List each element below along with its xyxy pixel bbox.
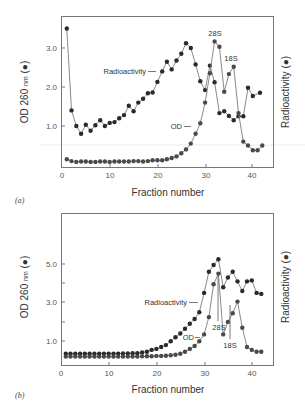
radioactivity-data-point — [179, 52, 183, 56]
od-data-point — [179, 151, 183, 155]
od-data-point — [88, 160, 92, 164]
radioactivity-data-point — [174, 58, 178, 62]
radioactivity-data-point — [136, 100, 140, 104]
od-data-point — [259, 350, 263, 354]
panel-a-xtick-0: 0 — [60, 171, 65, 180]
od-data-point — [236, 111, 240, 115]
od-data-point — [122, 159, 126, 163]
radioactivity-data-point — [188, 322, 192, 326]
svg-text:Radioactivity (●): Radioactivity (●) — [280, 251, 291, 323]
od-data-point — [117, 159, 121, 163]
panel-b-right-axis-label: Radioactivity (●) — [280, 251, 291, 323]
od-data-point — [207, 315, 211, 319]
od-data-point — [221, 332, 225, 336]
od-data-point — [93, 160, 97, 164]
od-data-point — [146, 159, 150, 163]
od-data-point — [165, 157, 169, 161]
panel-a-annotation-28s: 28S — [208, 29, 221, 38]
od-data-point — [226, 320, 230, 324]
radioactivity-data-point — [159, 345, 163, 349]
od-data-point — [232, 65, 236, 69]
radioactivity-data-point — [122, 113, 126, 117]
od-data-point — [92, 354, 96, 358]
radioactivity-data-point — [184, 41, 188, 45]
od-data-point — [136, 159, 140, 163]
radioactivity-data-point — [140, 350, 144, 354]
od-data-point — [116, 354, 120, 358]
radioactivity-data-point — [170, 67, 174, 71]
radioactivity-data-point — [103, 124, 107, 128]
radioactivity-data-point — [155, 80, 159, 84]
sedimentation-profile-figure: 3.0 2.0 1.0 0 10 20 30 40 Fraction numbe… — [0, 0, 305, 406]
radioactivity-data-point — [65, 26, 69, 30]
panel-a-xtick-40: 40 — [248, 171, 257, 180]
panel-a-y-ticks — [62, 48, 66, 126]
od-data-point — [102, 354, 106, 358]
od-data-point — [159, 354, 163, 358]
od-data-point — [197, 339, 201, 343]
radioactivity-data-point — [254, 291, 258, 295]
panel-b-annotation-radioactivity: Radioactivity — [144, 298, 187, 307]
radioactivity-data-point — [164, 343, 168, 347]
radioactivity-data-point — [149, 348, 153, 352]
radioactivity-data-point — [189, 46, 193, 50]
od-data-point — [111, 354, 115, 358]
panel-a-ytick-3: 3.0 — [46, 44, 58, 53]
radioactivity-data-point — [165, 60, 169, 64]
od-data-point — [150, 158, 154, 162]
panel-b-xtick-30: 30 — [201, 369, 210, 378]
radioactivity-data-point — [160, 69, 164, 73]
od-data-point — [98, 159, 102, 163]
radioactivity-data-point — [193, 62, 197, 66]
panel-b-xtick-40: 40 — [248, 369, 257, 378]
panel-a-y-axis-label: OD 260 nm (●) — [19, 61, 30, 123]
od-data-point — [170, 156, 174, 160]
od-data-point — [131, 159, 135, 163]
od-data-point — [231, 311, 235, 315]
radioactivity-data-point — [250, 278, 254, 282]
radioactivity-data-point — [192, 317, 196, 321]
panel-b-xtick-0: 0 — [59, 369, 64, 378]
od-data-point — [240, 326, 244, 330]
od-data-point — [73, 354, 77, 358]
radioactivity-data-point — [131, 109, 135, 113]
radioactivity-data-point — [226, 275, 230, 279]
radioactivity-data-point — [141, 97, 145, 101]
panel-a-xtick-10: 10 — [106, 171, 115, 180]
od-data-point — [222, 90, 226, 94]
od-data-point — [145, 354, 149, 358]
radioactivity-data-point — [212, 80, 216, 84]
radioactivity-data-point — [241, 114, 245, 118]
panel-b-annotation-od: OD — [183, 333, 195, 342]
od-data-point — [126, 354, 130, 358]
od-data-point — [217, 45, 221, 49]
od-data-point — [69, 159, 73, 163]
od-data-point — [208, 71, 212, 75]
radioactivity-data-point — [245, 279, 249, 283]
od-data-point — [65, 157, 69, 161]
radioactivity-data-point — [112, 120, 116, 124]
panel-b: 5.0 3.0 1.0 0 10 20 30 40 Fraction numbe… — [15, 214, 291, 401]
panel-a-ytick-1: 1.0 — [46, 122, 58, 131]
od-data-point — [135, 354, 139, 358]
od-data-point — [121, 354, 125, 358]
panel-a-annotation-18s: 18S — [224, 54, 237, 63]
radioactivity-data-point — [127, 104, 131, 108]
od-data-point — [174, 154, 178, 158]
od-data-point — [241, 139, 245, 143]
panel-b-x-axis-label: Fraction number — [132, 384, 205, 395]
od-data-point — [250, 348, 254, 352]
od-data-point — [246, 143, 250, 147]
od-data-point — [189, 141, 193, 145]
radioactivity-data-point — [108, 121, 112, 125]
od-data-point — [97, 354, 101, 358]
panel-b-y-axis-label: OD 260 nm (●) — [19, 256, 30, 318]
radioactivity-data-point — [227, 114, 231, 118]
panel-a-x-ticks — [110, 164, 252, 168]
radioactivity-data-point — [202, 291, 206, 295]
od-data-point — [183, 350, 187, 354]
radioactivity-data-point — [146, 91, 150, 95]
radioactivity-data-point — [98, 118, 102, 122]
radioactivity-data-point — [93, 123, 97, 127]
od-data-point — [255, 148, 259, 152]
